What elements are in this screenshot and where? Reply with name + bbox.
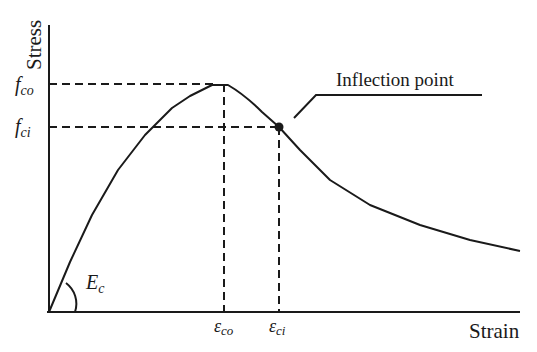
- eco-tick-label: εco: [214, 316, 234, 338]
- modulus-angle-arc: [66, 283, 76, 312]
- fco-tick-label: fco: [15, 73, 34, 98]
- modulus-sub: c: [98, 281, 105, 296]
- inflection-point-label: Inflection point: [336, 69, 454, 90]
- fco-sub: co: [21, 83, 34, 98]
- y-axis-label: Stress: [22, 20, 46, 70]
- stress-strain-diagram: Stress Strain Inflection point fco fci ε…: [0, 0, 537, 352]
- eco-sub: co: [221, 323, 234, 338]
- fci-sub: ci: [21, 125, 31, 140]
- modulus-main: E: [85, 271, 98, 293]
- stress-strain-curve: [49, 85, 520, 312]
- eci-tick-label: εci: [269, 316, 286, 338]
- inflection-leader-line: [294, 95, 482, 118]
- fci-tick-label: fci: [15, 115, 31, 140]
- inflection-point-marker: [275, 123, 284, 132]
- reference-lines: [49, 84, 279, 312]
- modulus-label: Ec: [85, 271, 105, 296]
- x-axis-label: Strain: [469, 319, 520, 343]
- eci-sub: ci: [276, 323, 286, 338]
